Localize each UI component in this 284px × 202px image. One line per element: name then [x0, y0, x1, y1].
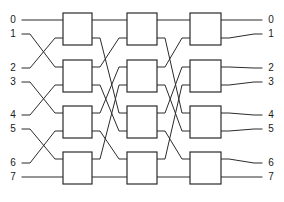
switch-1-4[interactable] — [63, 152, 92, 184]
input-label-1: 1 — [10, 28, 16, 39]
wire-input-4 — [22, 85, 63, 115]
output-label-4: 4 — [268, 109, 274, 120]
switch-1-3[interactable] — [63, 106, 92, 138]
output-label-1: 1 — [268, 28, 274, 39]
switch-boxes-layer — [63, 13, 221, 184]
switch-2-2[interactable] — [127, 60, 157, 92]
input-label-3: 3 — [10, 76, 16, 87]
wire-output-4 — [221, 113, 262, 115]
output-label-7: 7 — [268, 171, 274, 182]
input-label-5: 5 — [10, 123, 16, 134]
wire-stage1-stage2-6 — [92, 85, 127, 159]
wire-stage2-stage3-1 — [157, 38, 190, 113]
wire-output-5 — [221, 129, 262, 131]
switch-2-3[interactable] — [127, 106, 157, 138]
network-diagram-canvas: 0123456701234567 — [0, 0, 284, 202]
wire-stage2-stage3-5 — [157, 131, 190, 159]
output-label-5: 5 — [268, 123, 274, 134]
switch-3-3[interactable] — [190, 106, 221, 138]
wire-stage2-stage3-6 — [157, 85, 190, 159]
wire-input-2 — [22, 38, 63, 68]
wire-output-3 — [221, 82, 262, 85]
output-label-0: 0 — [268, 14, 274, 25]
switch-2-1[interactable] — [127, 13, 157, 45]
wire-stage1-stage2-5 — [92, 131, 127, 159]
input-label-4: 4 — [10, 109, 16, 120]
switch-3-1[interactable] — [190, 13, 221, 45]
wire-output-1 — [221, 34, 262, 38]
switch-2-4[interactable] — [127, 152, 157, 184]
wire-input-5 — [22, 129, 63, 159]
input-label-0: 0 — [10, 14, 16, 25]
wire-input-6 — [22, 131, 63, 163]
switch-1-1[interactable] — [63, 13, 92, 45]
wire-stage2-stage3-2 — [157, 38, 190, 67]
input-label-2: 2 — [10, 62, 16, 73]
output-label-3: 3 — [268, 76, 274, 87]
switch-3-2[interactable] — [190, 60, 221, 92]
input-label-7: 7 — [10, 171, 16, 182]
wire-input-3 — [22, 82, 63, 113]
wire-output-2 — [221, 67, 262, 68]
input-label-6: 6 — [10, 157, 16, 168]
switch-3-4[interactable] — [190, 152, 221, 184]
wire-output-6 — [221, 159, 262, 163]
switch-1-2[interactable] — [63, 60, 92, 92]
output-label-2: 2 — [268, 62, 274, 73]
wire-input-1 — [22, 34, 63, 67]
network-svg: 0123456701234567 — [0, 0, 284, 202]
wire-stage1-stage2-3 — [92, 85, 127, 131]
wire-stage1-stage2-1 — [92, 38, 127, 113]
wire-stage1-stage2-2 — [92, 38, 127, 67]
output-label-6: 6 — [268, 157, 274, 168]
